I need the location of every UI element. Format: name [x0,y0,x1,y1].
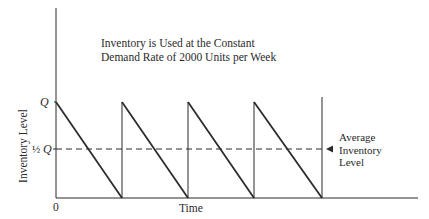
avg-line-2: Inventory [339,144,382,157]
replenishment-lines [122,97,322,198]
half-q-symbol: Q [43,142,52,156]
title-line-1: Inventory is Used at the Constant [101,36,276,50]
average-inventory-annotation: Average Inventory Level [339,131,382,169]
sawtooth-series [56,102,322,198]
half-fraction: ½ [32,143,40,155]
avg-line-1: Average [339,131,382,144]
x-axis-label: Time [179,201,203,215]
y-axis-label: Inventory Level [17,101,29,191]
diagram-title: Inventory is Used at the Constant Demand… [101,36,276,64]
half-q-label: ½ Q [32,142,52,156]
q-label: Q [40,95,49,109]
origin-label: 0 [53,200,59,214]
avg-line-3: Level [339,156,382,169]
inventory-sawtooth-diagram [0,0,429,219]
left-triangle-arrow-icon [326,146,333,153]
title-line-2: Demand Rate of 2000 Units per Week [101,50,276,64]
